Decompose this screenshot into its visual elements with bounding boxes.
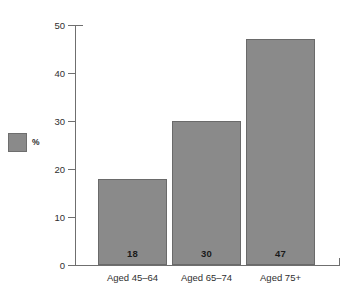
y-tick-label: 40: [54, 68, 65, 79]
bar: 18: [98, 179, 167, 265]
bar-chart: % 01020304050 183047 Aged 45–64Aged 65–7…: [0, 0, 352, 295]
y-tick-mark: [68, 25, 75, 26]
bar-value-label: 30: [173, 248, 240, 259]
y-tick-mark: [68, 73, 75, 74]
x-axis-line: [75, 265, 340, 266]
y-tick-mark: [68, 121, 75, 122]
x-axis-end-cap: [339, 258, 340, 266]
y-tick-mark: [68, 217, 75, 218]
plot-area: 01020304050 183047 Aged 45–64Aged 65–74A…: [75, 25, 340, 265]
y-tick-label: 20: [54, 164, 65, 175]
y-tick-label: 0: [60, 260, 65, 271]
bar-value-label: 18: [99, 248, 166, 259]
y-tick-label: 30: [54, 116, 65, 127]
legend-swatch-percent: [8, 133, 27, 152]
bar: 47: [246, 39, 315, 265]
y-tick-mark: [68, 169, 75, 170]
x-category-label: Aged 65–74: [172, 272, 241, 283]
bar: 30: [172, 121, 241, 265]
x-category-label: Aged 45–64: [98, 272, 167, 283]
bar-value-label: 47: [247, 248, 314, 259]
y-tick-label: 50: [54, 20, 65, 31]
y-axis-line: [75, 25, 76, 265]
y-tick-mark: [68, 265, 75, 266]
y-tick-label: 10: [54, 212, 65, 223]
x-category-label: Aged 75+: [246, 272, 315, 283]
legend-label-percent: %: [32, 138, 40, 147]
y-axis-top-cap: [75, 25, 83, 26]
chart-legend: %: [8, 133, 40, 152]
